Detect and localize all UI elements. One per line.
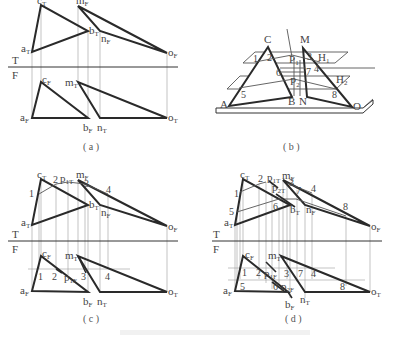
axis-label-t: T xyxy=(12,54,19,66)
svg-text:4: 4 xyxy=(106,184,111,195)
svg-text:T: T xyxy=(213,228,220,240)
svg-text:p1F: p1F xyxy=(64,271,77,285)
svg-text:T: T xyxy=(12,228,19,240)
svg-text:H2: H2 xyxy=(336,73,348,87)
projection-diagram: T F cT aT bT mF nF oF cF aF bF mT nT oT … xyxy=(0,0,395,339)
projector-lines xyxy=(32,5,167,118)
triangle-abc-top xyxy=(32,5,88,52)
svg-text:7: 7 xyxy=(306,66,311,77)
svg-text:1: 1 xyxy=(234,188,239,199)
triangle-mno-top xyxy=(78,82,167,118)
svg-text:F: F xyxy=(213,243,219,255)
svg-text:cF: cF xyxy=(42,73,51,87)
svg-text:bF: bF xyxy=(83,121,93,135)
svg-text:N: N xyxy=(299,95,307,107)
svg-text:bT: bT xyxy=(89,198,100,212)
figure-caption-faint xyxy=(120,330,310,335)
svg-text:cF: cF xyxy=(245,248,254,262)
svg-text:nT: nT xyxy=(97,295,108,309)
svg-text:6: 6 xyxy=(276,67,281,78)
svg-text:oF: oF xyxy=(168,220,178,234)
svg-text:8: 8 xyxy=(343,201,348,212)
svg-text:bT: bT xyxy=(89,24,100,38)
caption-d: ( d ) xyxy=(285,313,302,325)
svg-text:1: 1 xyxy=(38,271,43,282)
svg-text:p1T: p1T xyxy=(60,172,74,186)
svg-text:nT: nT xyxy=(97,121,108,135)
svg-text:3: 3 xyxy=(81,271,86,282)
svg-text:bF: bF xyxy=(83,295,93,309)
svg-text:2: 2 xyxy=(52,271,57,282)
svg-text:oT: oT xyxy=(168,111,179,125)
svg-text:4: 4 xyxy=(105,271,110,282)
panel-c: T F cT mF p1T 2 3 4 1 aT bT nF oF cF mT … xyxy=(8,168,179,325)
svg-text:8: 8 xyxy=(340,281,345,292)
axis-label-f: F xyxy=(12,69,18,81)
svg-text:aT: aT xyxy=(224,216,234,230)
panel-b: C M 1 2 3 H1 P1 4 6 7 H2 P2 5 8 A B N O … xyxy=(216,29,375,153)
svg-text:3: 3 xyxy=(284,268,289,279)
svg-text:aF: aF xyxy=(223,284,232,298)
caption-b: ( b ) xyxy=(283,141,300,153)
svg-text:A: A xyxy=(220,98,228,110)
caption-a: ( a ) xyxy=(83,141,99,153)
svg-text:2: 2 xyxy=(267,52,272,63)
svg-text:cT: cT xyxy=(37,0,47,8)
projector-lines-c xyxy=(28,179,167,292)
svg-text:aF: aF xyxy=(20,111,29,125)
svg-text:7: 7 xyxy=(296,185,301,196)
svg-text:B: B xyxy=(288,95,295,107)
svg-text:C: C xyxy=(264,33,271,45)
svg-text:cT: cT xyxy=(240,168,250,182)
svg-text:8: 8 xyxy=(332,89,337,100)
svg-text:bF: bF xyxy=(285,298,295,312)
svg-text:2: 2 xyxy=(53,174,58,185)
svg-text:mT: mT xyxy=(65,76,79,90)
panel-d: T F cT 2 p1T mF 3 p2T 7 4 1 5 6 8 aT xyxy=(212,168,382,325)
svg-text:cF: cF xyxy=(42,247,51,261)
caption-c: ( c ) xyxy=(83,313,99,325)
svg-text:mT: mT xyxy=(65,249,79,263)
svg-text:aT: aT xyxy=(21,216,31,230)
svg-text:p2F: p2F xyxy=(281,280,294,294)
svg-text:6: 6 xyxy=(273,281,278,292)
svg-text:P2: P2 xyxy=(290,75,300,89)
svg-text:4: 4 xyxy=(314,63,319,74)
svg-text:p1F: p1F xyxy=(264,267,277,281)
svg-text:oT: oT xyxy=(371,285,382,299)
svg-text:aF: aF xyxy=(20,284,29,298)
svg-text:3: 3 xyxy=(307,51,312,62)
panel-a: T F cT aT bT mF nF oF cF aF bF mT nT oT … xyxy=(8,0,179,153)
svg-text:nT: nT xyxy=(300,293,311,307)
svg-text:oF: oF xyxy=(168,46,178,60)
svg-text:5: 5 xyxy=(229,206,234,217)
svg-text:5: 5 xyxy=(241,89,246,100)
svg-text:bT: bT xyxy=(290,203,301,217)
svg-text:2: 2 xyxy=(256,267,261,278)
svg-text:O: O xyxy=(353,100,361,112)
svg-text:M: M xyxy=(300,33,310,45)
svg-text:3: 3 xyxy=(289,177,294,188)
svg-text:5: 5 xyxy=(240,281,245,292)
svg-text:1: 1 xyxy=(242,267,247,278)
svg-text:4: 4 xyxy=(311,183,316,194)
svg-text:1: 1 xyxy=(253,53,258,64)
svg-text:2: 2 xyxy=(258,173,263,184)
svg-text:6: 6 xyxy=(273,201,278,212)
svg-text:3: 3 xyxy=(84,178,89,189)
svg-text:cT: cT xyxy=(37,168,47,182)
svg-text:oT: oT xyxy=(168,285,179,299)
svg-text:1: 1 xyxy=(29,188,34,199)
svg-text:oF: oF xyxy=(371,220,381,234)
svg-text:mT: mT xyxy=(268,249,282,263)
svg-text:aT: aT xyxy=(21,42,31,56)
triangle-abc-front xyxy=(32,82,88,118)
svg-text:4: 4 xyxy=(311,268,316,279)
svg-text:F: F xyxy=(12,243,18,255)
svg-text:7: 7 xyxy=(298,268,303,279)
